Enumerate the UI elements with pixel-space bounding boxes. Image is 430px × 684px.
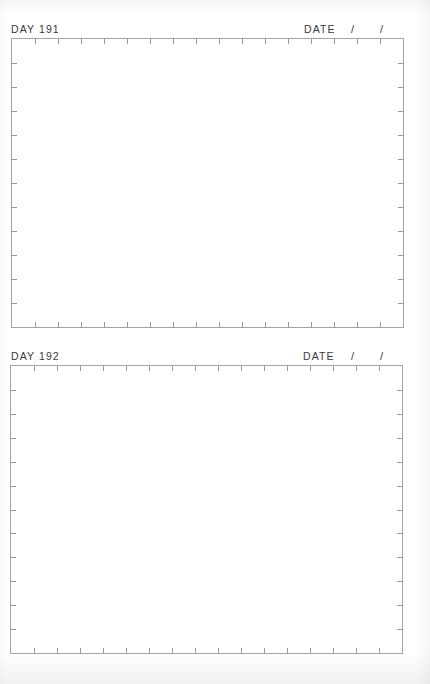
date-label: DATE — [303, 349, 335, 363]
bottom-tick-mark — [287, 648, 288, 653]
right-tick-mark — [397, 605, 402, 606]
entry-header-day-191: DAY 191 DATE / / — [0, 22, 430, 36]
left-tick-mark — [11, 414, 16, 415]
top-tick-mark — [103, 366, 104, 371]
bottom-tick-mark — [310, 648, 311, 653]
top-tick-mark — [81, 39, 82, 44]
day-label: DAY 191 — [11, 22, 60, 36]
left-tick-mark — [11, 629, 16, 630]
top-tick-mark — [150, 39, 151, 44]
left-tick-mark — [11, 462, 16, 463]
bottom-tick-mark — [127, 322, 128, 327]
date-label: DATE — [304, 22, 336, 36]
top-tick-mark — [333, 366, 334, 371]
left-tick-mark — [12, 303, 17, 304]
top-tick-mark — [219, 39, 220, 44]
journal-writing-box-day-191[interactable] — [11, 38, 404, 328]
bottom-tick-mark — [58, 322, 59, 327]
right-tick-mark — [398, 63, 403, 64]
bottom-tick-mark — [35, 322, 36, 327]
right-tick-mark — [398, 279, 403, 280]
bottom-tick-mark — [195, 648, 196, 653]
right-tick-mark — [397, 557, 402, 558]
bottom-tick-mark — [311, 322, 312, 327]
top-tick-mark — [264, 366, 265, 371]
bottom-tick-mark — [104, 322, 105, 327]
right-tick-mark — [397, 581, 402, 582]
bottom-tick-mark — [34, 648, 35, 653]
top-tick-mark — [218, 366, 219, 371]
right-tick-mark — [398, 87, 403, 88]
top-tick-mark — [35, 39, 36, 44]
bottom-tick-mark — [172, 648, 173, 653]
bottom-tick-mark — [357, 322, 358, 327]
top-tick-mark — [241, 366, 242, 371]
entry-header-day-192: DAY 192 DATE / / — [0, 349, 430, 363]
bottom-tick-mark — [126, 648, 127, 653]
top-tick-mark — [172, 366, 173, 371]
bottom-tick-mark — [57, 648, 58, 653]
right-tick-mark — [397, 533, 402, 534]
left-tick-mark — [11, 390, 16, 391]
bottom-tick-mark — [218, 648, 219, 653]
right-tick-mark — [397, 414, 402, 415]
bottom-tick-mark — [333, 648, 334, 653]
left-tick-mark — [12, 207, 17, 208]
right-tick-mark — [397, 462, 402, 463]
left-tick-mark — [11, 557, 16, 558]
bottom-tick-mark — [80, 648, 81, 653]
bottom-tick-mark — [241, 648, 242, 653]
right-tick-mark — [398, 135, 403, 136]
bottom-tick-mark — [264, 648, 265, 653]
right-tick-mark — [398, 159, 403, 160]
left-tick-mark — [12, 255, 17, 256]
top-tick-mark — [80, 366, 81, 371]
right-tick-mark — [398, 255, 403, 256]
top-tick-mark — [58, 39, 59, 44]
bottom-tick-mark — [379, 648, 380, 653]
bottom-tick-mark — [265, 322, 266, 327]
top-tick-mark — [287, 366, 288, 371]
bottom-tick-mark — [356, 648, 357, 653]
top-tick-mark — [379, 366, 380, 371]
right-tick-mark — [397, 510, 402, 511]
top-tick-mark — [34, 366, 35, 371]
left-tick-mark — [12, 87, 17, 88]
left-tick-mark — [12, 159, 17, 160]
bottom-tick-mark — [219, 322, 220, 327]
bottom-tick-mark — [150, 322, 151, 327]
bottom-tick-mark — [334, 322, 335, 327]
day-label: DAY 192 — [11, 349, 60, 363]
right-tick-mark — [398, 207, 403, 208]
date-separator-day: / — [380, 22, 384, 36]
bottom-tick-mark — [103, 648, 104, 653]
right-tick-mark — [398, 303, 403, 304]
left-tick-mark — [12, 135, 17, 136]
top-tick-mark — [311, 39, 312, 44]
top-tick-mark — [357, 39, 358, 44]
top-tick-mark — [195, 366, 196, 371]
top-tick-mark — [104, 39, 105, 44]
top-tick-mark — [242, 39, 243, 44]
top-tick-mark — [288, 39, 289, 44]
top-tick-mark — [126, 366, 127, 371]
date-separator-month: / — [351, 349, 355, 363]
left-tick-mark — [12, 183, 17, 184]
bottom-tick-mark — [380, 322, 381, 327]
bottom-tick-mark — [149, 648, 150, 653]
date-separator-month: / — [351, 22, 355, 36]
top-tick-mark — [173, 39, 174, 44]
top-tick-mark — [196, 39, 197, 44]
top-tick-mark — [380, 39, 381, 44]
top-tick-mark — [310, 366, 311, 371]
left-tick-mark — [11, 533, 16, 534]
top-tick-mark — [356, 366, 357, 371]
right-tick-mark — [397, 390, 402, 391]
journal-writing-box-day-192[interactable] — [10, 365, 403, 654]
right-tick-mark — [398, 183, 403, 184]
right-tick-mark — [398, 111, 403, 112]
right-tick-mark — [398, 231, 403, 232]
right-tick-mark — [397, 486, 402, 487]
left-tick-mark — [12, 279, 17, 280]
left-tick-mark — [12, 63, 17, 64]
